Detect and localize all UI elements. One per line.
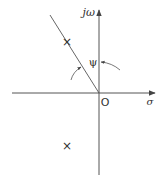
origin-label: O bbox=[101, 96, 110, 109]
angle-arrow-right bbox=[101, 62, 120, 70]
real-axis-label: σ bbox=[147, 96, 155, 107]
s-plane-diagram: × × jω σ O ψ bbox=[0, 0, 162, 183]
pole-radial-line bbox=[50, 15, 99, 93]
angle-arrow-left bbox=[71, 67, 81, 80]
upper-pole-marker: × bbox=[62, 35, 72, 49]
lower-pole-marker: × bbox=[62, 139, 72, 153]
angle-label: ψ bbox=[89, 56, 98, 69]
imaginary-axis-label: jω bbox=[80, 6, 95, 19]
